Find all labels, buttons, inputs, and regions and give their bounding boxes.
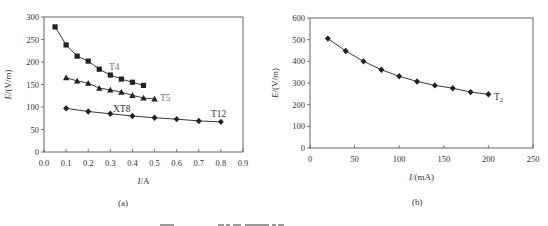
diamond-marker (361, 58, 367, 64)
series-label-t5: T5 (160, 93, 171, 103)
y-tick-label: 400 (292, 56, 305, 66)
x-tick-label: 200 (482, 154, 495, 164)
x-axis-label: I/A (137, 176, 151, 186)
square-marker (86, 59, 91, 64)
x-tick-label: 150 (437, 154, 450, 164)
diamond-marker (450, 85, 456, 91)
x-tick-label: 0.9 (238, 158, 249, 168)
diamond-marker (85, 108, 91, 114)
y-tick-label: 0 (301, 143, 305, 153)
chart-panel-a: 0501001502002503000.00.10.20.30.40.50.60… (3, 12, 248, 186)
triangle-marker (96, 85, 102, 91)
x-tick-label: 0 (308, 154, 312, 164)
x-tick-label: 0.1 (61, 158, 72, 168)
panel-a-caption: (a) (118, 198, 128, 208)
caption-glyph-fragment (233, 224, 241, 226)
y-axis-label: E/(V/m) (270, 68, 280, 99)
x-tick-label: 0.6 (171, 158, 182, 168)
square-marker (52, 24, 57, 29)
y-tick-label: 500 (292, 35, 305, 45)
diamond-marker (468, 89, 474, 95)
diamond-marker (378, 67, 384, 73)
diamond-marker (325, 35, 331, 41)
series-t2 (325, 35, 492, 97)
x-axis-label: I/(mA) (408, 172, 434, 182)
x-tick-label: 0.3 (105, 158, 116, 168)
triangle-marker (63, 75, 69, 81)
x-tick-label: 0.4 (127, 158, 138, 168)
diamond-marker (174, 116, 180, 122)
chart-panel-b: 0100200300400500600050100150200250I/(mA)… (270, 13, 539, 182)
square-marker (97, 67, 102, 72)
figure: 0501001502002503000.00.10.20.30.40.50.60… (0, 0, 548, 226)
series-label-xt8: XT8 (113, 104, 131, 114)
square-marker (75, 54, 80, 59)
y-tick-label: 150 (26, 80, 39, 90)
x-tick-label: 0.5 (149, 158, 160, 168)
series-label-t2: T2 (494, 92, 503, 103)
series-line (328, 39, 489, 95)
caption-glyph-fragment (245, 224, 269, 226)
x-tick-label: 250 (527, 154, 540, 164)
square-marker (108, 72, 113, 77)
x-tick-label: 100 (393, 154, 406, 164)
caption-glyph-fragment (160, 224, 174, 226)
y-tick-label: 200 (292, 100, 305, 110)
x-tick-label: 50 (350, 154, 359, 164)
figure-caption-cutoff (160, 224, 284, 226)
series-label-t12: T12 (211, 109, 227, 119)
y-tick-label: 250 (26, 35, 39, 45)
y-tick-label: 50 (31, 125, 40, 135)
square-marker (119, 77, 124, 82)
y-tick-label: 200 (26, 57, 39, 67)
diamond-marker (432, 82, 438, 88)
caption-glyph-fragment (278, 224, 284, 226)
series-line (55, 27, 143, 86)
diamond-marker (63, 105, 69, 111)
y-tick-label: 300 (26, 12, 39, 22)
series-t5 (63, 75, 158, 102)
diamond-marker (414, 78, 420, 84)
square-marker (130, 80, 135, 85)
diamond-marker (343, 48, 349, 54)
caption-glyph-fragment (272, 224, 276, 226)
panel-b-caption: (b) (412, 197, 423, 207)
x-tick-label: 0.0 (39, 158, 50, 168)
diamond-marker (396, 73, 402, 79)
diamond-marker (485, 91, 491, 97)
x-tick-label: 0.8 (216, 158, 227, 168)
caption-glyph-fragment (226, 224, 230, 226)
square-marker (141, 83, 146, 88)
y-tick-label: 600 (292, 13, 305, 23)
y-tick-label: 100 (26, 102, 39, 112)
x-tick-label: 0.2 (83, 158, 94, 168)
series-xt8-t12 (63, 105, 224, 125)
caption-glyph-fragment (218, 224, 224, 226)
diamond-marker (152, 115, 158, 121)
y-axis-label: E/(V/m) (3, 70, 13, 101)
y-tick-label: 100 (292, 121, 305, 131)
diamond-marker (218, 119, 224, 125)
y-tick-label: 300 (292, 78, 305, 88)
diamond-marker (196, 118, 202, 124)
plot-area-frame (310, 18, 533, 148)
series-label-t4: T4 (109, 62, 120, 72)
y-tick-label: 0 (35, 147, 39, 157)
x-tick-label: 0.7 (193, 158, 204, 168)
square-marker (64, 42, 69, 47)
